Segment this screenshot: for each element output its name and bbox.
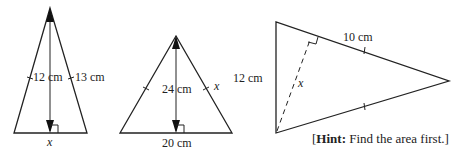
base-label: 20 cm [162, 136, 192, 150]
arrow-up-icon [46, 8, 54, 22]
dashed-label: x [297, 76, 304, 90]
altitude-label: 24 cm [162, 82, 192, 96]
hint-text: [Hint: Find the area first.] [312, 131, 449, 146]
side-label: 13 cm [75, 70, 105, 84]
triangle-2: 24 cm x 20 cm [120, 36, 232, 150]
dashed-altitude [277, 40, 310, 131]
triangle-3: 12 cm 10 cm x [Hint: Find the area first… [233, 22, 449, 146]
arrow-up-icon [172, 36, 180, 49]
right-angle-marker [308, 37, 318, 44]
altitude-label: 12 cm [33, 70, 63, 84]
base-label: x [46, 135, 53, 149]
side-label: x [213, 79, 220, 93]
arrow-down-icon [172, 120, 180, 133]
triangle-1: 12 cm 13 cm x [14, 8, 105, 149]
top-side-label: 10 cm [343, 30, 373, 44]
arrow-down-icon [46, 120, 54, 133]
geometry-figures: 12 cm 13 cm x 24 cm x 20 cm 12 cm 10 cm … [0, 0, 463, 156]
left-side-label: 12 cm [233, 71, 263, 85]
